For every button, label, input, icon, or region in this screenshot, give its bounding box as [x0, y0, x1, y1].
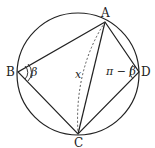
arc-label-x: x [75, 68, 82, 81]
point-label-A: A [100, 6, 110, 20]
angle-D-label: π − β [105, 65, 136, 78]
angle-B-label: β [30, 66, 37, 79]
cyclic-quadrilateral-diagram: A B C D β π − β x [0, 0, 155, 148]
point-label-C: C [74, 136, 83, 148]
point-label-B: B [6, 65, 15, 79]
point-label-D: D [141, 65, 151, 79]
